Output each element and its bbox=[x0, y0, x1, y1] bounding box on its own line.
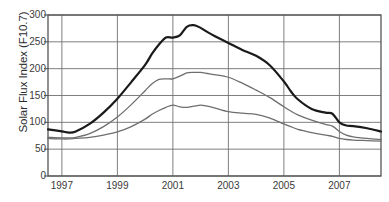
plot-area bbox=[0, 0, 389, 202]
x-axis-tick-label: 2001 bbox=[153, 181, 193, 191]
grid-lines bbox=[48, 15, 381, 176]
series-line-mid-estimate bbox=[48, 72, 381, 139]
x-axis-tick-label: 2005 bbox=[264, 181, 304, 191]
x-axis-tick-label: 2007 bbox=[319, 181, 359, 191]
data-series bbox=[48, 25, 381, 141]
x-axis-tick-label: 1999 bbox=[97, 181, 137, 191]
x-axis-tick-label: 1997 bbox=[42, 181, 82, 191]
series-line-lower-bound bbox=[48, 105, 381, 141]
x-axis-tick-label: 2003 bbox=[208, 181, 248, 191]
solar-flux-chart: Solar Flux Index (F10.7) 050100150200250… bbox=[0, 0, 389, 202]
series-line-upper-bound bbox=[48, 25, 381, 132]
